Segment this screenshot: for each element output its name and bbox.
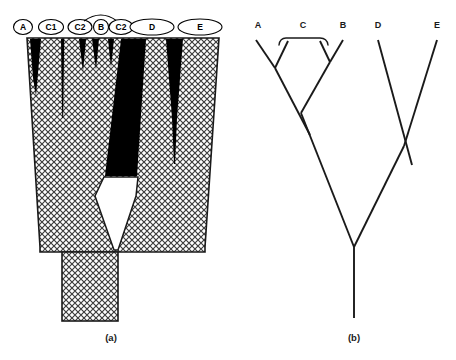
figure-svg: A C1 C2 B C2 [0, 0, 456, 360]
label-b-text: B [98, 22, 104, 32]
branch-abc-to-root [301, 113, 354, 247]
label-c1-text: C1 [46, 22, 57, 32]
label-a[interactable]: A [14, 20, 33, 35]
panel-a-labels: A C1 C2 B C2 [14, 15, 223, 35]
panel-a-caption: (a) [105, 332, 117, 343]
taxon-label-b: B [340, 20, 347, 30]
panel-b-caption: (b) [348, 332, 360, 343]
branch-internal-bc [301, 62, 330, 113]
label-e[interactable]: E [178, 19, 222, 35]
label-c2-right[interactable]: C2 [109, 20, 133, 35]
label-d[interactable]: D [130, 19, 174, 35]
label-e-text: E [197, 22, 203, 32]
basal-stem-fill [62, 252, 118, 321]
label-c2-left-text: C2 [75, 22, 86, 32]
taxon-label-c: C [300, 20, 307, 30]
label-b[interactable]: B [94, 20, 109, 35]
label-c2-left[interactable]: C2 [68, 20, 92, 35]
panel-a: A C1 C2 B C2 [12, 15, 222, 343]
label-c2-right-text: C2 [116, 22, 127, 32]
branch-de-to-root [354, 146, 404, 247]
branch-b [330, 40, 343, 62]
basal-stem [62, 252, 118, 321]
branch-e [404, 40, 437, 146]
label-c1[interactable]: C1 [39, 20, 64, 35]
taxon-label-d: D [375, 20, 382, 30]
panel-b: A C B D E (b) [255, 20, 440, 342]
figure-root: A C1 C2 B C2 [0, 0, 456, 360]
label-a-text: A [20, 22, 26, 32]
branch-d [378, 40, 412, 165]
taxon-label-a: A [255, 20, 262, 30]
branch-a [256, 40, 275, 68]
label-d-text: D [149, 22, 155, 32]
taxon-label-e: E [434, 20, 440, 30]
branch-c-left [275, 41, 288, 68]
